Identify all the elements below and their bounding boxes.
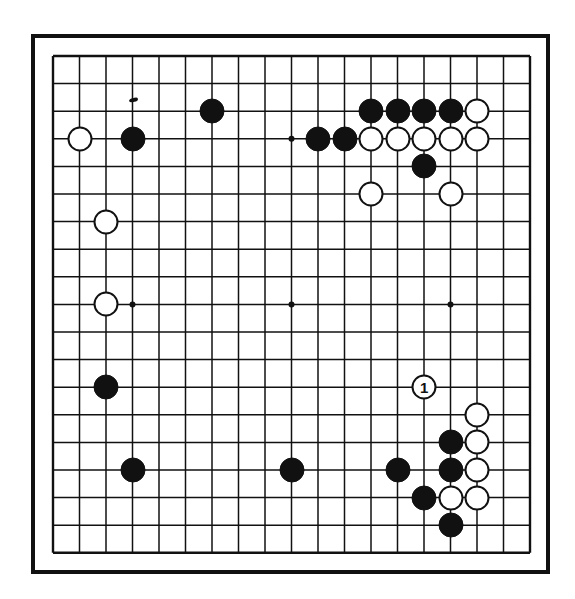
white-stone[interactable]	[465, 485, 490, 510]
black-stone[interactable]	[359, 99, 384, 124]
white-stone[interactable]	[359, 126, 384, 151]
black-stone[interactable]	[412, 485, 437, 510]
black-stone[interactable]	[120, 126, 145, 151]
black-stone[interactable]	[332, 126, 357, 151]
black-stone[interactable]	[438, 99, 463, 124]
black-stone[interactable]	[385, 99, 410, 124]
star-point	[289, 301, 295, 307]
star-point	[289, 136, 295, 142]
white-stone[interactable]	[438, 485, 463, 510]
white-stone[interactable]	[94, 292, 119, 317]
black-stone[interactable]	[306, 126, 331, 151]
white-stone[interactable]	[465, 402, 490, 427]
star-point	[448, 301, 454, 307]
numbered-move-stone[interactable]: 1	[412, 375, 437, 400]
black-stone[interactable]	[438, 430, 463, 455]
go-board[interactable]: 1	[31, 34, 550, 574]
white-stone[interactable]	[94, 209, 119, 234]
black-stone[interactable]	[120, 458, 145, 483]
white-stone[interactable]	[385, 126, 410, 151]
black-stone[interactable]	[200, 99, 225, 124]
black-stone[interactable]	[438, 458, 463, 483]
white-stone[interactable]	[465, 99, 490, 124]
white-stone[interactable]	[412, 126, 437, 151]
white-stone[interactable]	[438, 182, 463, 207]
star-point	[130, 301, 136, 307]
white-stone[interactable]	[465, 126, 490, 151]
move-number-label: 1	[414, 377, 435, 398]
black-stone[interactable]	[412, 154, 437, 179]
white-stone[interactable]	[359, 182, 384, 207]
go-diagram-root: 1	[0, 0, 575, 599]
black-stone[interactable]	[412, 99, 437, 124]
white-stone[interactable]	[438, 126, 463, 151]
black-stone[interactable]	[94, 375, 119, 400]
black-stone[interactable]	[385, 458, 410, 483]
white-stone[interactable]	[67, 126, 92, 151]
black-stone[interactable]	[438, 513, 463, 538]
white-stone[interactable]	[465, 458, 490, 483]
white-stone[interactable]	[465, 430, 490, 455]
black-stone[interactable]	[279, 458, 304, 483]
